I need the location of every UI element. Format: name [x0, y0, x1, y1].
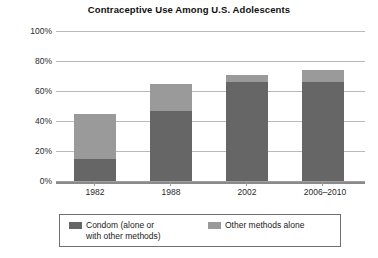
legend-entry-condom[interactable]: Condom (alone or with other methods) [69, 220, 161, 241]
y-tick-label: 0% [4, 177, 52, 186]
legend-entry-other-methods[interactable]: Other methods alone [208, 220, 304, 231]
legend-label-condom: Condom (alone or with other methods) [86, 220, 161, 241]
x-axis-tick [322, 182, 323, 186]
x-tick-label-1982: 1982 [65, 188, 125, 197]
bar-segment-other-methods [302, 70, 344, 82]
x-axis-tick [170, 182, 171, 186]
legend-label-other-methods: Other methods alone [225, 220, 304, 231]
bar-segment-condom [150, 111, 192, 182]
y-tick-label: 60% [4, 87, 52, 96]
legend-swatch-other-methods [208, 222, 221, 229]
bars-layer [56, 31, 365, 181]
chart-title: Contraceptive Use Among U.S. Adolescents [0, 4, 378, 15]
x-axis-tick [246, 182, 247, 186]
bar-segment-condom [226, 82, 268, 181]
legend-swatch-condom [69, 222, 82, 229]
x-tick-label-2002: 2002 [217, 188, 277, 197]
bar-segment-other-methods [150, 84, 192, 111]
bar-segment-condom [74, 159, 116, 182]
bar-segment-other-methods [226, 75, 268, 83]
y-tick-label: 100% [4, 27, 52, 36]
y-tick-label: 20% [4, 147, 52, 156]
y-tick-label: 40% [4, 117, 52, 126]
x-tick-label-1988: 1988 [141, 188, 201, 197]
x-tick-label-2006-2010: 2006–2010 [286, 188, 364, 197]
chart-legend: Condom (alone or with other methods) Oth… [59, 214, 341, 247]
x-axis-line [56, 182, 365, 184]
x-axis-tick [94, 182, 95, 186]
x-axis: 1982 1988 2002 2006–2010 [56, 188, 365, 202]
bar-segment-other-methods [74, 114, 116, 159]
y-tick-label: 80% [4, 57, 52, 66]
chart-container: Contraceptive Use Among U.S. Adolescents… [0, 0, 378, 258]
y-axis: 100% 80% 60% 40% 20% 0% [0, 31, 52, 181]
bar-segment-condom [302, 82, 344, 181]
